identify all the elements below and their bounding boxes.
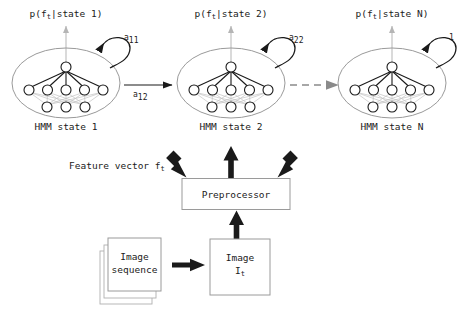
state-1-self-loop-label: a11 [124, 33, 138, 45]
state-n-nodes [350, 62, 434, 112]
state-n-self-loop-label: 1 [449, 33, 454, 45]
state-1-nodes [24, 62, 108, 112]
state-n-group[interactable] [338, 26, 456, 118]
state-1-caption: HMM state 1 [35, 122, 98, 133]
feature-arrow-left [166, 151, 186, 178]
state-2-self-loop-label: a22 [289, 33, 303, 45]
diagram-canvas: p(ft|state 1) p(ft|state 2) p(ft|state N… [0, 0, 465, 322]
transition-1-2-label: a12 [133, 90, 147, 102]
sequence-to-image-arrow [172, 259, 205, 272]
state-n-caption: HMM state N [361, 122, 424, 133]
state-n-emission-label: p(ft|state N) [356, 9, 429, 21]
state-2-group[interactable] [177, 26, 295, 118]
feature-vector-label: Feature vector ft [69, 161, 165, 173]
state-2-caption: HMM state 2 [200, 122, 263, 133]
preprocessor-label: Preprocessor [202, 188, 271, 201]
state-2-emission-label: p(ft|state 2) [195, 9, 268, 21]
state-1-group[interactable] [12, 26, 130, 118]
state-1-emission-label: p(ft|state 1) [30, 9, 103, 21]
state-2-nodes [189, 62, 273, 112]
image-to-preprocessor-arrow [229, 211, 244, 241]
image-frame-label: ImageIt [226, 252, 255, 279]
feature-arrow-center [224, 146, 239, 178]
image-sequence-label: Imagesequence [112, 251, 158, 277]
feature-arrow-right [278, 151, 298, 178]
feature-arrows [166, 146, 298, 178]
